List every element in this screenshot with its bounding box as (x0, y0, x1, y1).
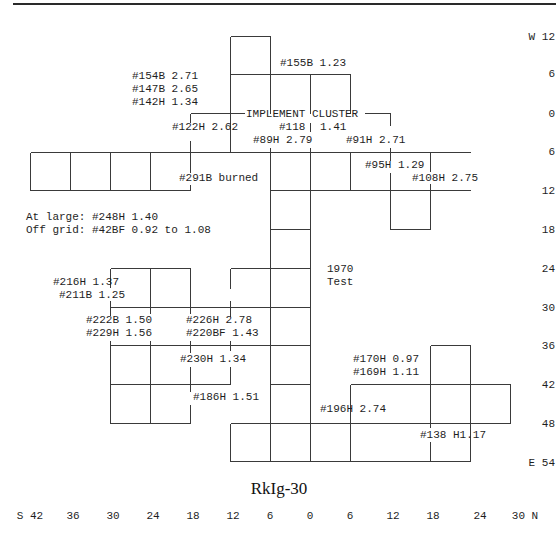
unit-label: #230H 1.34 (180, 353, 246, 365)
bottom-axis-tick: 36 (66, 510, 79, 522)
unit-label: #95H 1.29 (365, 159, 424, 171)
unit-label: #155B 1.23 (280, 57, 346, 69)
right-axis-tick: 18 (542, 224, 555, 236)
unit-label: #142H 1.34 (132, 96, 198, 108)
bottom-axis-tick: 18 (186, 510, 199, 522)
unit-label: #196H 2.74 (320, 403, 386, 415)
site-grid-map: #154B 2.71#147B 2.65#142H 1.34#155B 1.23… (0, 0, 559, 535)
unit-label: #91H 2.71 (346, 134, 406, 146)
unit-label: #154B 2.71 (132, 70, 198, 82)
right-axis-tick: 0 (548, 108, 555, 120)
right-axis-tick: 36 (542, 340, 555, 352)
right-axis-tick: 30 (542, 302, 555, 314)
unit-label: #222B 1.50 (86, 314, 152, 326)
right-axis-tick: 6 (548, 146, 555, 158)
unit-label: #122H 2.62 (172, 121, 238, 133)
unit-label: 1.41 (320, 121, 347, 133)
unit-label: #216H 1.37 (53, 276, 119, 288)
unit-label: #220BF 1.43 (186, 327, 259, 339)
unit-label: #169H 1.11 (353, 366, 419, 378)
right-axis-tick: 24 (542, 263, 556, 275)
bottom-axis-tick: 0 (307, 510, 314, 522)
unit-label: #229H 1.56 (86, 327, 152, 339)
right-axis-tick: 42 (542, 379, 555, 391)
right-axis-tick: E 54 (529, 457, 556, 469)
bottom-axis-tick: 30 N (512, 510, 538, 522)
unit-label: At large: #248H 1.40 (26, 211, 158, 223)
unit-label: Test (327, 276, 353, 288)
unit-label: 1970 (327, 263, 353, 275)
unit-label: Off grid: #42BF 0.92 to 1.08 (26, 224, 211, 236)
unit-label: #147B 2.65 (132, 83, 198, 95)
unit-label: #108H 2.75 (412, 172, 478, 184)
bottom-axis-tick: 24 (146, 510, 160, 522)
bottom-axis-tick: S 42 (17, 510, 43, 522)
bottom-axis-tick: 6 (267, 510, 274, 522)
bottom-axis-scale: S 42363024181260612182430 N (17, 510, 538, 522)
unit-label: #118 (279, 121, 305, 133)
right-axis-tick: 12 (542, 185, 555, 197)
unit-label: #211B 1.25 (59, 289, 125, 301)
right-axis-tick: 48 (542, 418, 555, 430)
unit-label: #89H 2.79 (253, 134, 312, 146)
unit-label: #170H 0.97 (353, 353, 419, 365)
right-axis-scale: W 1260612182430364248E 54 (529, 31, 556, 469)
bottom-axis-tick: 12 (226, 510, 239, 522)
unit-label: #226H 2.78 (186, 314, 252, 326)
bottom-axis-tick: 30 (106, 510, 119, 522)
unit-label: #291B burned (179, 172, 258, 184)
bottom-axis-tick: 12 (386, 510, 399, 522)
unit-label: #138 H1.17 (420, 429, 486, 441)
right-axis-tick: 6 (548, 68, 555, 80)
right-axis-tick: W 12 (529, 31, 555, 43)
unit-label: #186H 1.51 (193, 391, 259, 403)
cluster-label: IMPLEMENT CLUSTER (246, 108, 359, 120)
unit-labels: #154B 2.71#147B 2.65#142H 1.34#155B 1.23… (26, 57, 486, 441)
bottom-axis-tick: 24 (473, 510, 487, 522)
site-title: RkIg-30 (251, 479, 308, 498)
bottom-axis-tick: 6 (347, 510, 354, 522)
bottom-axis-tick: 18 (426, 510, 439, 522)
